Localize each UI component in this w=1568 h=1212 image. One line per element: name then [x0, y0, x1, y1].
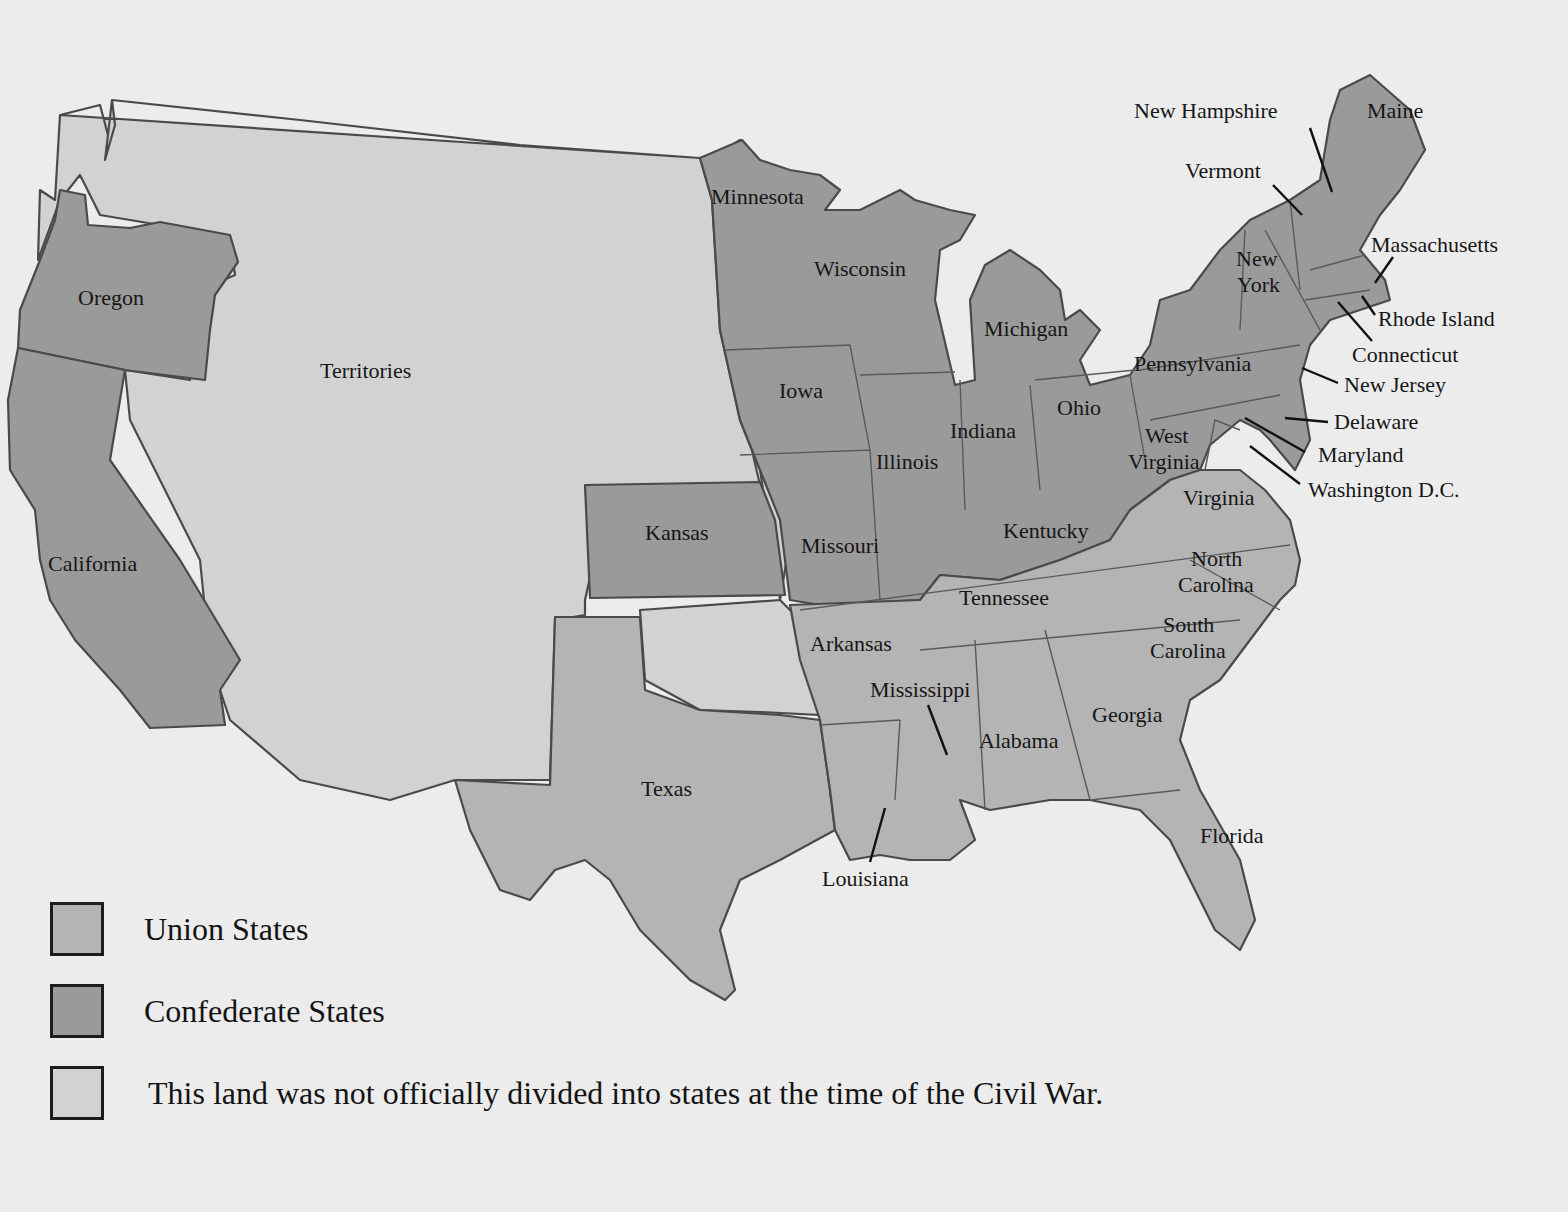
label-michigan: Michigan	[984, 316, 1068, 342]
label-west-virginia-line1: West	[1145, 423, 1188, 449]
legend-item-territories: This land was not officially divided int…	[50, 1066, 1103, 1120]
label-pennsylvania: Pennsylvania	[1134, 351, 1251, 377]
label-virginia: Virginia	[1183, 485, 1255, 511]
label-alabama: Alabama	[979, 728, 1058, 754]
label-kansas: Kansas	[645, 520, 709, 546]
legend-swatch-confederate	[50, 984, 104, 1038]
label-delaware: Delaware	[1334, 409, 1418, 435]
label-iowa: Iowa	[779, 378, 823, 404]
label-south-carolina-line2: Carolina	[1150, 638, 1226, 664]
label-north-carolina-line1: North	[1191, 546, 1242, 572]
label-kentucky: Kentucky	[1003, 518, 1089, 544]
label-florida: Florida	[1200, 823, 1264, 849]
legend-swatch-union	[50, 902, 104, 956]
label-new-york-line1: New	[1236, 246, 1278, 272]
label-texas: Texas	[641, 776, 692, 802]
label-tennessee: Tennessee	[959, 585, 1049, 611]
label-ohio: Ohio	[1057, 395, 1101, 421]
label-territories: Territories	[320, 358, 411, 384]
label-west-virginia-line2: Virginia	[1128, 449, 1200, 475]
label-georgia: Georgia	[1092, 702, 1162, 728]
label-illinois: Illinois	[876, 449, 938, 475]
label-oregon: Oregon	[78, 285, 144, 311]
label-louisiana: Louisiana	[822, 866, 909, 892]
label-rhode-island: Rhode Island	[1378, 306, 1495, 332]
legend-label-territories: This land was not officially divided int…	[148, 1075, 1103, 1112]
legend-label-union: Union States	[144, 911, 308, 948]
label-new-york-line2: York	[1237, 272, 1280, 298]
label-california: California	[48, 551, 137, 577]
label-north-carolina-line2: Carolina	[1178, 572, 1254, 598]
label-vermont: Vermont	[1185, 158, 1261, 184]
legend-label-confederate: Confederate States	[144, 993, 385, 1030]
label-massachusetts: Massachusetts	[1371, 232, 1498, 258]
label-washington-dc: Washington D.C.	[1308, 477, 1460, 503]
label-new-hampshire: New Hampshire	[1134, 98, 1278, 124]
label-arkansas: Arkansas	[810, 631, 892, 657]
label-south-carolina-line1: South	[1163, 612, 1214, 638]
legend-swatch-territories	[50, 1066, 104, 1120]
label-mississippi: Mississippi	[870, 677, 970, 703]
label-minnesota: Minnesota	[711, 184, 804, 210]
legend-item-union: Union States	[50, 902, 308, 956]
label-indiana: Indiana	[950, 418, 1016, 444]
label-connecticut: Connecticut	[1352, 342, 1458, 368]
label-missouri: Missouri	[801, 533, 879, 559]
legend-item-confederate: Confederate States	[50, 984, 385, 1038]
label-maryland: Maryland	[1318, 442, 1404, 468]
label-wisconsin: Wisconsin	[814, 256, 906, 282]
label-new-jersey: New Jersey	[1344, 372, 1446, 398]
label-maine: Maine	[1367, 98, 1423, 124]
